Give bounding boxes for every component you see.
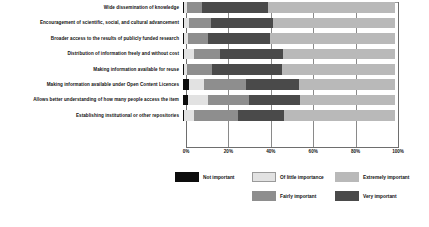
x-tick-label: 40%: [266, 149, 275, 154]
legend-row-2: Fairly importantVery important: [0, 185, 429, 202]
bar-segment: [299, 79, 395, 90]
category-label: Wide dissemination of knowledge: [0, 5, 183, 10]
legend-row-1: Not importantOf little importanceExtreme…: [0, 168, 429, 185]
bar-row: Broader access to the results of publicl…: [0, 31, 429, 46]
x-tick-label: 100%: [392, 149, 404, 154]
stacked-bar: [183, 2, 395, 13]
bar-segment: [273, 18, 395, 29]
bar-segment: [212, 64, 282, 75]
stacked-bar-chart: Wide dissemination of knowledgeEncourage…: [0, 0, 429, 227]
category-label: Establishing institutional or other repo…: [0, 113, 183, 118]
bar-segment: [202, 2, 268, 13]
stacked-bar: [183, 79, 395, 90]
legend-item[interactable]: Extremely important: [335, 172, 409, 182]
bar-segment: [194, 49, 221, 60]
bar-segment: [187, 2, 202, 13]
legend-label: Very important: [363, 194, 397, 199]
legend-label: Fairly important: [280, 194, 316, 199]
category-label: Allows better understanding of how many …: [0, 97, 183, 102]
x-tick-label: 20%: [224, 149, 233, 154]
legend-swatch-icon: [252, 191, 276, 201]
category-label: Encouragement of scientific, social, and…: [0, 20, 183, 25]
legend-swatch-icon: [252, 172, 276, 182]
legend-label: Extremely important: [363, 175, 409, 180]
bar-segment: [189, 79, 204, 90]
bar-segment: [246, 79, 299, 90]
bar-segment: [204, 79, 245, 90]
bar-segment: [187, 64, 211, 75]
bar-row: Allows better understanding of how many …: [0, 92, 429, 107]
bar-row: Distribution of information freely and w…: [0, 46, 429, 61]
axis-baseline: [186, 147, 399, 148]
stacked-bar: [183, 64, 395, 75]
category-label: Broader access to the results of publicl…: [0, 36, 183, 41]
bar-segment: [211, 18, 274, 29]
bar-row: Making information available under Open …: [0, 77, 429, 92]
bar-segment: [188, 33, 208, 44]
bar-segment: [268, 2, 395, 13]
stacked-bar: [183, 18, 395, 29]
bar-segment: [238, 110, 284, 121]
legend-item[interactable]: Fairly important: [252, 191, 316, 201]
legend-label: Not important: [203, 175, 234, 180]
bar-segment: [194, 110, 239, 121]
category-label: Making information available for reuse: [0, 67, 183, 72]
category-label: Making information available under Open …: [0, 82, 183, 87]
bar-segment: [284, 110, 395, 121]
bar-segment: [300, 95, 395, 106]
bar-segment: [189, 18, 210, 29]
legend-swatch-icon: [335, 172, 359, 182]
x-tick-label: 0%: [183, 149, 190, 154]
stacked-bar: [183, 33, 395, 44]
bar-segment: [184, 49, 194, 60]
plot-area: Wide dissemination of knowledgeEncourage…: [0, 0, 429, 160]
bar-rows: Wide dissemination of knowledgeEncourage…: [0, 0, 429, 123]
chart-legend: Not importantOf little importanceExtreme…: [0, 168, 429, 218]
bar-segment: [283, 49, 395, 60]
bar-segment: [188, 95, 208, 106]
legend-label: Of little importance: [280, 175, 324, 180]
bar-row: Establishing institutional or other repo…: [0, 108, 429, 123]
bar-segment: [249, 95, 300, 106]
bar-segment: [270, 33, 395, 44]
bar-row: Making information available for reuse: [0, 62, 429, 77]
stacked-bar: [183, 110, 395, 121]
category-label: Distribution of information freely and w…: [0, 51, 183, 56]
stacked-bar: [183, 49, 395, 60]
stacked-bar: [183, 95, 395, 106]
legend-item[interactable]: Not important: [175, 172, 234, 182]
bar-segment: [208, 33, 269, 44]
x-tick-label: 60%: [309, 149, 318, 154]
bar-segment: [282, 64, 395, 75]
bar-segment: [184, 110, 194, 121]
bar-row: Encouragement of scientific, social, and…: [0, 15, 429, 30]
legend-item[interactable]: Of little importance: [252, 172, 324, 182]
bar-row: Wide dissemination of knowledge: [0, 0, 429, 15]
bar-segment: [220, 49, 283, 60]
x-tick-label: 80%: [351, 149, 360, 154]
legend-item[interactable]: Very important: [335, 191, 397, 201]
bar-segment: [208, 95, 248, 106]
legend-swatch-icon: [175, 172, 199, 182]
legend-swatch-icon: [335, 191, 359, 201]
